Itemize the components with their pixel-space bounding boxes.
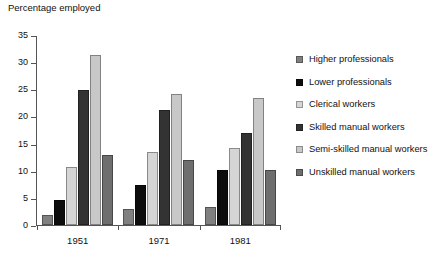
bar xyxy=(241,133,252,225)
bar-group-1981: 1981 xyxy=(200,36,281,225)
x-tick-label: 1951 xyxy=(37,235,118,246)
x-tick-mark xyxy=(118,225,119,230)
y-tick-label: 0 xyxy=(23,220,28,231)
plot-area: 05101520253035 195119711981 xyxy=(36,36,281,226)
bar xyxy=(205,207,216,225)
y-tick-label: 30 xyxy=(18,57,28,68)
bar-chart: Percentage employed 05101520253035 19511… xyxy=(0,0,432,253)
legend-swatch-icon xyxy=(296,124,303,131)
bar xyxy=(265,170,276,225)
y-tick-mark xyxy=(31,36,36,37)
y-tick-mark xyxy=(31,226,36,227)
x-tick-label: 1971 xyxy=(118,235,199,246)
legend-label: Higher professionals xyxy=(309,54,394,66)
legend-item: Skilled manual workers xyxy=(296,122,428,134)
legend-label: Unskilled manual workers xyxy=(309,167,415,179)
y-tick-mark xyxy=(31,145,36,146)
x-tick-mark xyxy=(280,225,281,230)
legend-item: Semi-skilled manual workers xyxy=(296,144,428,156)
y-tick-mark xyxy=(31,63,36,64)
bar xyxy=(102,155,113,225)
bar-group-1951: 1951 xyxy=(37,36,118,225)
legend-swatch-icon xyxy=(296,169,303,176)
legend-item: Higher professionals xyxy=(296,54,428,66)
legend-swatch-icon xyxy=(296,79,303,86)
y-tick-label: 20 xyxy=(18,111,28,122)
y-tick-mark xyxy=(31,90,36,91)
legend-item: Clerical workers xyxy=(296,99,428,111)
legend-swatch-icon xyxy=(296,146,303,153)
legend-item: Lower professionals xyxy=(296,77,428,89)
x-tick-label: 1981 xyxy=(200,235,281,246)
y-tick-mark xyxy=(31,172,36,173)
y-tick-mark xyxy=(31,199,36,200)
bar-group-1971: 1971 xyxy=(118,36,199,225)
bar xyxy=(229,148,240,225)
bar xyxy=(159,110,170,225)
chart-legend: Higher professionalsLower professionalsC… xyxy=(296,54,428,189)
bar xyxy=(253,98,264,225)
bar xyxy=(217,170,228,225)
bar xyxy=(66,167,77,225)
legend-label: Clerical workers xyxy=(309,99,375,111)
x-tick-mark xyxy=(200,225,201,230)
y-tick-label: 5 xyxy=(23,193,28,204)
bar xyxy=(90,55,101,225)
bar xyxy=(78,90,89,225)
y-tick-mark xyxy=(31,117,36,118)
y-tick-label: 10 xyxy=(18,166,28,177)
legend-label: Lower professionals xyxy=(309,77,392,89)
y-tick-label: 35 xyxy=(18,30,28,41)
legend-item: Unskilled manual workers xyxy=(296,167,428,179)
bar xyxy=(147,152,158,225)
bar-groups: 195119711981 xyxy=(37,36,281,225)
bar xyxy=(123,209,134,225)
y-tick-label: 25 xyxy=(18,84,28,95)
x-tick-mark xyxy=(37,225,38,230)
bar xyxy=(42,215,53,225)
bar xyxy=(54,200,65,225)
bar xyxy=(171,94,182,225)
y-tick-label: 15 xyxy=(18,139,28,150)
legend-swatch-icon xyxy=(296,56,303,63)
x-axis-line xyxy=(36,225,281,226)
legend-label: Semi-skilled manual workers xyxy=(309,144,427,156)
legend-label: Skilled manual workers xyxy=(309,122,405,134)
legend-swatch-icon xyxy=(296,101,303,108)
bar xyxy=(183,160,194,225)
y-axis-title: Percentage employed xyxy=(8,2,100,14)
bar xyxy=(135,185,146,225)
